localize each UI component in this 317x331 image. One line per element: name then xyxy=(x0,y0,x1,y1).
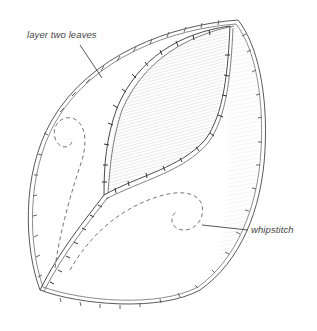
left-swirl-vein xyxy=(54,118,85,268)
whipstitch-label: whipstitch xyxy=(251,224,294,235)
layer-label-leader xyxy=(80,45,102,78)
lower-swirl-vein xyxy=(70,193,203,270)
leaf-sketch xyxy=(0,0,317,331)
lower-leaf-midrib xyxy=(40,195,108,291)
layer-two-leaves-label: layer two leaves xyxy=(27,29,97,40)
